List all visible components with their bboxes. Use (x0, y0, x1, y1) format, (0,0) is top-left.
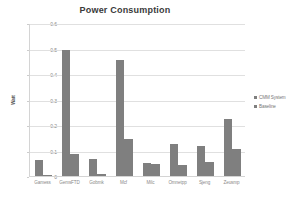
bar-group (224, 24, 240, 176)
legend-label: Baseline (259, 104, 276, 109)
legend-item: CMM System (254, 94, 308, 100)
x-axis-tick-label: Zeusmp (224, 180, 240, 185)
legend-label: CMM System (259, 95, 286, 100)
bar (151, 164, 159, 176)
bar (143, 163, 151, 177)
x-axis-tick-label: GemsFTD (59, 180, 79, 185)
bar (35, 160, 43, 176)
bar (197, 146, 205, 176)
bar-group (35, 24, 51, 176)
bar-group (197, 24, 213, 176)
bar-group (62, 24, 78, 176)
y-axis-title: Watt (11, 95, 16, 105)
legend-swatch-icon (254, 105, 257, 108)
bar (62, 50, 70, 176)
bar (97, 174, 105, 176)
x-axis-tick-label: Sjeng (199, 180, 210, 185)
x-axis-tick-label: Mcf (120, 180, 127, 185)
bar (232, 149, 240, 176)
x-axis-tick-label: Gobmk (89, 180, 103, 185)
x-axis-tick-label: Milc (147, 180, 155, 185)
bar-group (170, 24, 186, 176)
x-axis-tick-label: Gamess (34, 180, 51, 185)
bar (70, 154, 78, 176)
bar (170, 144, 178, 176)
y-axis-tick-mark (27, 177, 29, 178)
bar (43, 175, 51, 176)
chart-legend: CMM SystemBaseline (254, 94, 308, 112)
bar (116, 60, 124, 176)
bar (124, 139, 132, 176)
legend-swatch-icon (254, 96, 257, 99)
bar (224, 119, 232, 176)
x-axis-tick-label: Omnetpp (168, 180, 186, 185)
plot-area (29, 24, 245, 177)
power-consumption-chart: Power Consumption Watt 00.10.20.30.40.50… (0, 0, 308, 199)
chart-title: Power Consumption (0, 5, 250, 15)
bar (178, 165, 186, 176)
bar-group (143, 24, 159, 176)
legend-item: Baseline (254, 103, 308, 109)
bar-group (116, 24, 132, 176)
bar (205, 162, 213, 176)
bar-group (89, 24, 105, 176)
bar (89, 159, 97, 176)
